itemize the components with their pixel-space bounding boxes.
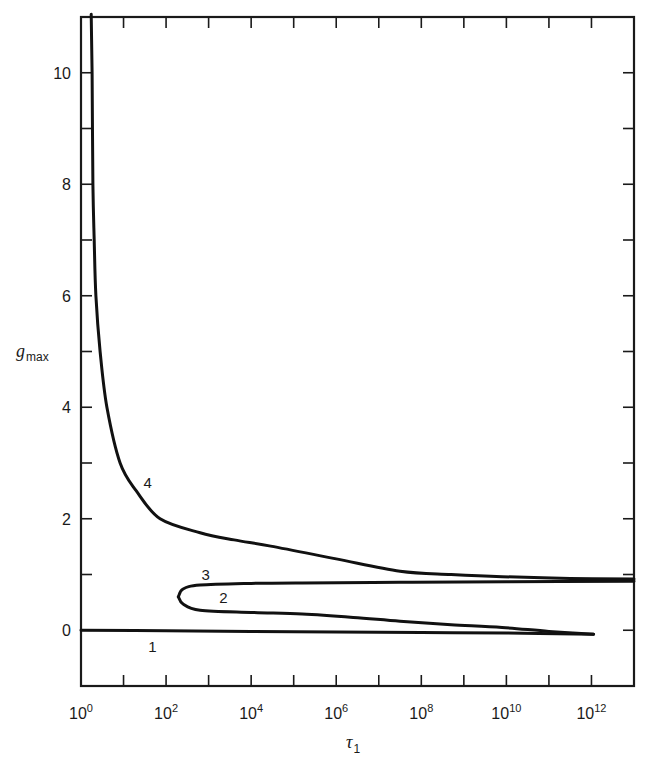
x-tick-label: 1010 — [491, 702, 521, 722]
y-tick-label: 10 — [53, 65, 71, 82]
plot-frame — [81, 17, 634, 686]
chart: 10010210410610810101012 0246810 1234 gma… — [0, 0, 652, 760]
x-axis-label: τ1 — [346, 732, 360, 756]
curve-label-4: 4 — [144, 474, 152, 491]
curve-2 — [178, 597, 593, 634]
curve-labels: 1234 — [144, 474, 228, 655]
y-tick-label: 8 — [62, 176, 71, 193]
x-tick-label: 108 — [409, 702, 433, 722]
curve-label-2: 2 — [219, 589, 227, 606]
x-tick-label: 100 — [69, 702, 93, 722]
x-tick-label: 106 — [324, 702, 348, 722]
curve-label-3: 3 — [201, 566, 209, 583]
x-tick-labels: 10010210410610810101012 — [69, 702, 606, 722]
curve-label-1: 1 — [148, 638, 156, 655]
curve-3 — [178, 581, 634, 597]
curve-4 — [91, 14, 634, 579]
y-tick-label: 2 — [62, 511, 71, 528]
curves — [81, 14, 634, 634]
x-tick-label: 102 — [154, 702, 178, 722]
axes-frame — [81, 17, 634, 686]
y-tick-label: 0 — [62, 622, 71, 639]
y-axis-label: gmax — [16, 341, 49, 364]
y-tick-label: 4 — [62, 399, 71, 416]
x-tick-label: 104 — [239, 702, 263, 722]
y-tick-label: 6 — [62, 288, 71, 305]
curve-1 — [81, 630, 594, 634]
tick-marks — [81, 17, 634, 686]
x-tick-label: 1012 — [576, 702, 606, 722]
y-tick-labels: 0246810 — [53, 65, 71, 640]
